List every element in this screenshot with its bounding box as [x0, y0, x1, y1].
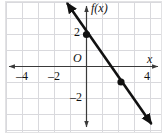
x-tick-label-4: 4 — [144, 69, 150, 84]
coordinate-plane-svg — [0, 0, 166, 136]
x-axis-label: x — [147, 52, 152, 67]
plot-point-y-intercept — [83, 31, 90, 38]
x-tick-label-minus2: –2 — [48, 69, 60, 84]
plot-point-second — [117, 78, 124, 85]
function-label-fx: f(x) — [91, 1, 108, 16]
y-tick-label-2: 2 — [74, 25, 80, 40]
x-tick-label-minus4: –4 — [16, 69, 28, 84]
origin-label: O — [73, 51, 82, 66]
graph-figure: f(x) 2 O x –4 –2 4 –2 — [0, 0, 166, 136]
y-tick-label-minus2: –2 — [70, 90, 82, 105]
